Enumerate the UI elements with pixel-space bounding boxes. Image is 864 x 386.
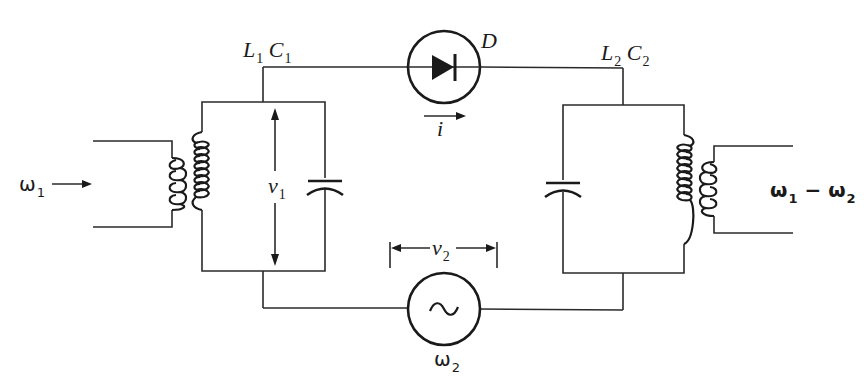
current-arrow-icon [424,112,466,120]
subscript: 2 [614,54,621,69]
omega-symbol: ω [770,178,787,202]
subscript: 2 [847,191,856,206]
input-leads [93,141,172,227]
subscript: 1 [279,187,286,202]
output-frequency-label: ω1 − ω2 [770,180,856,200]
subscript: 2 [452,360,460,375]
current-label: i [437,118,443,140]
subscript: 2 [443,249,450,264]
capacitor-symbol: C [627,40,642,65]
source-frequency-label: ω2 [434,349,460,369]
diode-icon [408,31,480,103]
inductor-symbol: L [243,37,255,62]
diode-label: D [481,30,497,52]
subscript: 1 [788,191,797,206]
omega-symbol: ω [434,347,451,371]
omega-symbol: ω [19,172,36,196]
inductor-symbol: L [601,40,613,65]
voltage-symbol: v [268,173,278,198]
subscript: 1 [284,51,291,66]
output-primary-coil [677,135,693,244]
voltage-v2-label: v2 [432,237,450,259]
circuit-diagram [0,0,864,386]
tank1-wiring [202,102,325,178]
subscript: 1 [37,185,45,200]
tank2-wiring [563,105,684,180]
input-secondary-coil [193,132,209,210]
input-arrow-icon [52,180,92,188]
ac-source-icon [408,273,480,345]
capacitor-symbol: C [269,37,284,62]
omega-symbol: ω [828,178,845,202]
input-primary-coil [170,158,186,210]
minus-operator: − [797,178,828,202]
input-frequency-label: ω1 [19,174,45,194]
voltage-v1-label: v1 [267,175,287,197]
voltage-symbol: v [432,235,442,260]
output-secondary-coil [700,162,716,216]
tank1-label: L1 C1 [243,39,291,61]
subscript: 2 [642,54,649,69]
subscript: 1 [256,51,263,66]
tank2-label: L2 C2 [601,42,649,64]
